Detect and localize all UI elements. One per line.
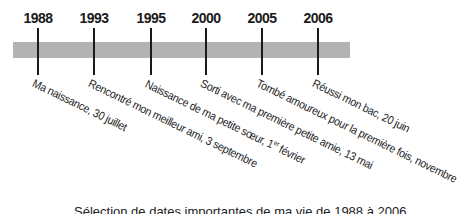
year-label-1995: 1995 (136, 10, 165, 26)
timeline-bar (13, 42, 350, 58)
year-label-1993: 1993 (79, 10, 108, 26)
year-label-2005: 2005 (247, 10, 276, 26)
event-label-2005: Tombé amoureux pour la première fois, no… (255, 77, 459, 185)
tick-2000 (205, 28, 207, 75)
tick-1995 (150, 28, 152, 75)
tick-2006 (317, 28, 319, 75)
tick-1993 (93, 28, 95, 75)
event-label-1988: Ma naissance, 30 juillet (31, 77, 129, 133)
tick-2005 (261, 28, 263, 75)
year-label-1988: 1988 (23, 10, 52, 26)
figure-caption: Sélection de dates importantes de ma vie… (74, 204, 406, 214)
year-label-2006: 2006 (303, 10, 332, 26)
tick-1988 (37, 28, 39, 75)
year-label-2000: 2000 (191, 10, 220, 26)
event-label-1995-tail: février (275, 142, 307, 166)
